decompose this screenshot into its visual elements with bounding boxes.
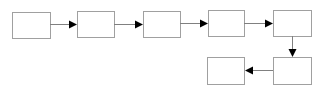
flowchart-diagram xyxy=(0,0,327,90)
box-1 xyxy=(13,13,51,39)
box-5 xyxy=(274,11,312,37)
box-3 xyxy=(144,12,181,38)
edge-box-3-to-box-4 xyxy=(180,20,208,28)
edge-box-4-to-box-5 xyxy=(244,20,273,28)
edge-box-1-to-box-2 xyxy=(50,21,77,29)
box-6 xyxy=(274,58,312,85)
edge-box-6-to-box-7 xyxy=(245,67,273,75)
edge-box-5-to-box-6 xyxy=(289,36,297,57)
box-4 xyxy=(209,11,245,37)
box-2 xyxy=(78,12,115,38)
box-7 xyxy=(208,58,245,85)
edge-box-2-to-box-3 xyxy=(114,21,143,29)
